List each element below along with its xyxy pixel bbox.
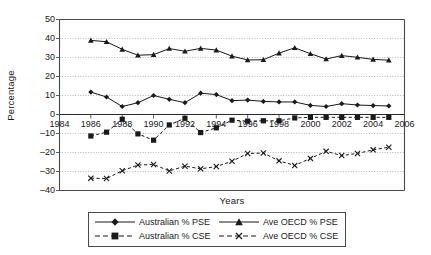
x-tick-label: 2000 — [294, 119, 326, 129]
legend-item-australian-pse[interactable]: Australian % PSE — [93, 216, 217, 228]
legend-swatch-x-dashed — [217, 230, 261, 242]
legend-swatch-triangle-solid — [217, 216, 261, 228]
x-tick-label: 1994 — [200, 119, 232, 129]
legend-swatch-square-dashed — [93, 230, 137, 242]
x-tick-label: 1986 — [75, 119, 107, 129]
y-tick-label: –10 — [22, 128, 55, 138]
chart-legend: Australian % PSE Ave OECD % PSE Australi… — [88, 212, 346, 247]
x-tick-label: 1984 — [44, 119, 76, 129]
y-tick-label: –20 — [22, 147, 55, 157]
series-0 — [88, 89, 391, 109]
x-axis-title-container: Years — [59, 190, 405, 208]
x-tick-label: 2004 — [357, 119, 389, 129]
legend-label: Ave OECD % CSE — [261, 231, 338, 241]
y-tick-label: 20 — [22, 71, 55, 81]
series-3 — [88, 145, 391, 182]
y-tick-label: –40 — [22, 185, 55, 195]
x-axis-title: Years — [220, 195, 245, 206]
legend-label: Australian % PSE — [137, 217, 210, 227]
legend-label: Ave OECD % PSE — [261, 217, 338, 227]
y-tick-label: 50 — [22, 14, 55, 24]
plot-area — [0, 0, 431, 200]
y-tick-label: 40 — [22, 33, 55, 43]
x-tick-label: 2006 — [389, 119, 421, 129]
y-tick-label: –30 — [22, 166, 55, 176]
chart-figure: Percentage 50403020100–10–20–30–40198419… — [0, 0, 431, 255]
x-tick-label: 1992 — [169, 119, 201, 129]
legend-swatch-diamond-solid — [93, 216, 137, 228]
legend-item-oecd-pse[interactable]: Ave OECD % PSE — [217, 216, 341, 228]
y-tick-label: 30 — [22, 52, 55, 62]
legend-row: Australian % CSE Ave OECD % CSE — [93, 229, 341, 243]
data-series-layer — [88, 38, 392, 182]
legend-item-australian-cse[interactable]: Australian % CSE — [93, 230, 217, 242]
x-tick-label: 1988 — [106, 119, 138, 129]
y-axis-title-container: Percentage — [2, 0, 18, 190]
x-tick-label: 2002 — [326, 119, 358, 129]
y-tick-label: 0 — [22, 109, 55, 119]
legend-row: Australian % PSE Ave OECD % PSE — [93, 215, 341, 229]
x-tick-label: 1998 — [263, 119, 295, 129]
x-tick-label: 1996 — [232, 119, 264, 129]
y-tick-label: 10 — [22, 90, 55, 100]
y-axis-title: Percentage — [5, 70, 16, 121]
series-1 — [88, 38, 392, 63]
legend-item-oecd-cse[interactable]: Ave OECD % CSE — [217, 230, 341, 242]
legend-label: Australian % CSE — [137, 231, 211, 241]
x-tick-label: 1990 — [138, 119, 170, 129]
